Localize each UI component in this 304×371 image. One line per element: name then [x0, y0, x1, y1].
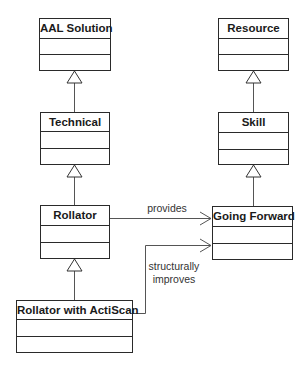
generalization-triangle-icon [67, 71, 82, 83]
class-name: AAL Solution [40, 19, 110, 39]
class-going-forward[interactable]: Going Forward [212, 206, 293, 260]
class-name: Rollator with ActiScan [17, 301, 132, 320]
class-name: Resource [219, 19, 288, 39]
provides-label: provides [146, 202, 188, 215]
attributes-compartment [219, 39, 288, 55]
operations-compartment [41, 149, 109, 164]
operations-compartment [219, 55, 288, 70]
attributes-compartment [219, 133, 288, 150]
operations-compartment [219, 150, 288, 164]
class-rollator-with-actiscan[interactable]: Rollator with ActiScan [16, 300, 133, 353]
class-aal-solution[interactable]: AAL Solution [39, 18, 111, 71]
generalization-triangle-icon [246, 165, 261, 177]
improves-label: improves [146, 273, 202, 286]
attributes-compartment [41, 132, 109, 149]
class-name: Technical [41, 113, 109, 132]
class-name: Rollator [41, 206, 109, 226]
operations-compartment [40, 55, 110, 70]
operations-compartment [41, 243, 109, 258]
class-technical[interactable]: Technical [40, 112, 110, 165]
class-resource[interactable]: Resource [218, 18, 289, 71]
structurally-label: structurally [146, 260, 202, 273]
class-rollator[interactable]: Rollator [40, 205, 110, 259]
operations-compartment [213, 244, 292, 259]
class-skill[interactable]: Skill [218, 112, 289, 165]
attributes-compartment [40, 39, 110, 55]
generalization-triangle-icon [67, 165, 82, 177]
operations-compartment [17, 337, 132, 352]
generalization-triangle-icon [246, 71, 261, 83]
class-name: Going Forward [213, 207, 292, 227]
attributes-compartment [17, 320, 132, 337]
class-name: Skill [219, 113, 288, 133]
attributes-compartment [213, 227, 292, 244]
attributes-compartment [41, 226, 109, 243]
generalization-triangle-icon [67, 259, 82, 271]
